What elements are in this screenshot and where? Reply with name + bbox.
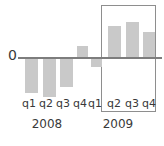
x-tick-label-6: q3 [123,97,141,110]
x-tick-label-7: q4 [140,97,158,110]
bar-chart: 0 q1q2q3q4q1q2q3q4 20082009 [0,0,164,146]
x-tick-label-0: q1 [20,97,38,110]
x-tick-label-1: q2 [37,97,55,110]
zero-axis-line [18,57,162,59]
x-tick-label-2: q3 [54,97,72,110]
bar-2008-q4 [77,46,88,57]
bar-2009-q3 [126,22,139,57]
x-group-label-2009: 2009 [98,117,138,132]
x-tick-label-4: q1 [86,97,104,110]
y-axis-zero-label: 0 [3,47,17,63]
bar-2008-q1 [25,59,38,93]
bar-2009-q2 [108,26,121,57]
bar-2008-q3 [60,59,73,87]
plot-area: 0 q1q2q3q4q1q2q3q4 20082009 [0,0,164,146]
bar-2008-q2 [43,59,56,97]
bar-2009-q4 [143,32,155,57]
x-group-label-2008: 2008 [27,117,67,132]
x-tick-label-5: q2 [105,97,123,110]
bar-2009-q1 [91,59,102,67]
